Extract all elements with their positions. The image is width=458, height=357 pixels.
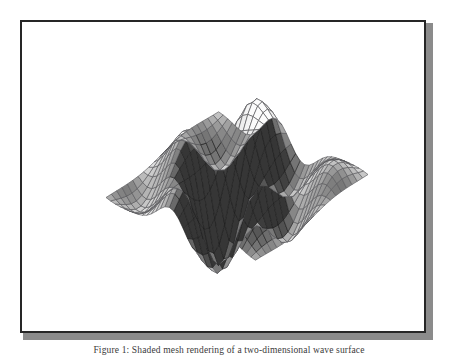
surface-mesh-chart xyxy=(22,22,426,333)
figure-page: Figure 1: Shaded mesh rendering of a two… xyxy=(0,0,458,357)
surface-plot-area xyxy=(22,22,424,331)
figure-frame xyxy=(20,20,426,333)
figure-caption: Figure 1: Shaded mesh rendering of a two… xyxy=(0,345,458,355)
